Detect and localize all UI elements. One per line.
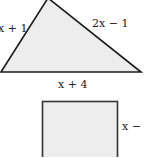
triangle-shape bbox=[1, 0, 141, 72]
triangle: 3x + 1 2x − 1 x + 4 bbox=[0, 0, 141, 91]
geometry-figure: 3x + 1 2x − 1 x + 4 x − 1 bbox=[0, 0, 143, 157]
triangle-left-side-label: 3x + 1 bbox=[0, 22, 27, 35]
rectangle-right-side-label: x − 1 bbox=[122, 120, 143, 133]
rectangle: x − 1 bbox=[43, 102, 144, 158]
rectangle-shape bbox=[43, 102, 118, 158]
triangle-right-side-label: 2x − 1 bbox=[92, 17, 128, 30]
triangle-base-label: x + 4 bbox=[58, 78, 87, 91]
